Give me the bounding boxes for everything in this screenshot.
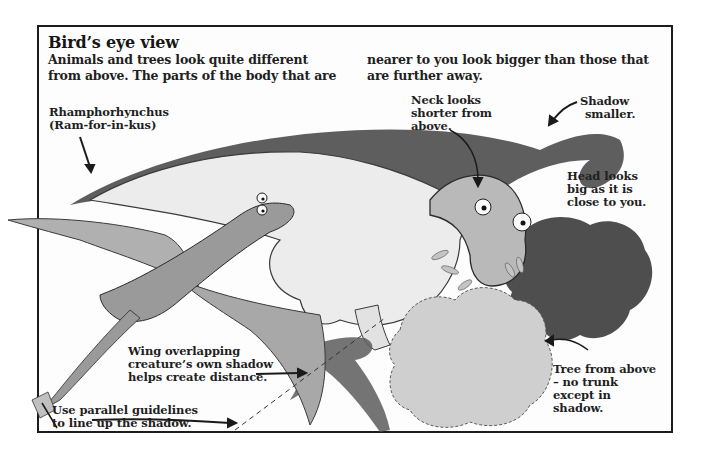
pterosaur-body [100, 203, 294, 322]
intro-line: are further away. [367, 68, 649, 84]
label-head: Head looks big as it is close to you. [567, 170, 646, 209]
label-rhamphorhynchus: Rhamphorhynchus (Ram-for-in-kus) [49, 106, 169, 132]
label-line: to line up the shadow. [52, 417, 198, 430]
pterosaur-tail [42, 310, 140, 410]
label-guidelines: Use parallel guidelines to line up the s… [52, 404, 198, 430]
intro-line: from above. The parts of the body that a… [48, 68, 336, 84]
page-title: Bird’s eye view [48, 33, 179, 52]
intro-line: nearer to you look bigger than those tha… [367, 52, 649, 68]
label-shadow: Shadow smaller. [580, 95, 635, 121]
intro-text-col2: nearer to you look bigger than those tha… [367, 52, 649, 84]
label-line: helps create distance. [128, 371, 273, 384]
intro-text-col1: Animals and trees look quite different f… [48, 52, 336, 84]
label-line: smaller. [580, 108, 635, 121]
intro-line: Animals and trees look quite different [48, 52, 336, 68]
label-neck: Neck looks shorter from above. [411, 94, 492, 133]
label-line: shadow. [553, 402, 656, 415]
label-line: above. [411, 120, 492, 133]
label-tree: Tree from above – no trunk except in sha… [553, 363, 656, 415]
tree-from-above [390, 288, 553, 428]
label-wing: Wing overlapping creature’s own shadow h… [128, 345, 273, 384]
label-line: (Ram-for-in-kus) [49, 119, 169, 132]
label-line: close to you. [567, 196, 646, 209]
